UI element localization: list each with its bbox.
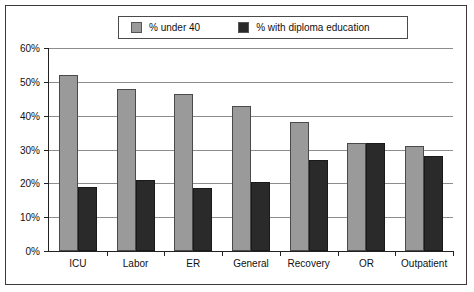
y-axis-tick-label: 40%: [20, 110, 40, 121]
bar-under-40[interactable]: [117, 89, 136, 251]
bar-under-40[interactable]: [347, 143, 366, 251]
y-axis-tick-label: 60%: [20, 43, 40, 54]
bar-group: [174, 48, 212, 251]
y-axis-tick-label: 30%: [20, 144, 40, 155]
bar-under-40[interactable]: [59, 75, 78, 251]
bar-group: [290, 48, 328, 251]
bar-diploma[interactable]: [424, 156, 443, 251]
x-axis-tick: [453, 251, 454, 256]
y-axis-tick-label: 50%: [20, 76, 40, 87]
bar-diploma[interactable]: [251, 182, 270, 251]
x-axis-tick: [107, 251, 108, 256]
bar-diploma[interactable]: [366, 143, 385, 251]
bar-under-40[interactable]: [232, 106, 251, 251]
y-axis-tick: [44, 251, 49, 252]
chart-frame: % under 40 % with diploma education 0%10…: [5, 5, 467, 285]
bar-diploma[interactable]: [309, 160, 328, 251]
x-axis-label-or: OR: [359, 258, 374, 269]
plot-area: 0%10%20%30%40%50%60% ICULaborERGeneralRe…: [48, 48, 453, 252]
bar-under-40[interactable]: [405, 146, 424, 251]
bar-diploma[interactable]: [193, 188, 212, 251]
bar-under-40[interactable]: [290, 122, 309, 251]
x-axis-label-outpatient: Outpatient: [401, 258, 447, 269]
bar-under-40[interactable]: [174, 94, 193, 251]
x-axis-label-er: ER: [186, 258, 200, 269]
bar-diploma[interactable]: [136, 180, 155, 251]
bar-group: [232, 48, 270, 251]
bar-group: [59, 48, 97, 251]
y-axis-tick-label: 10%: [20, 212, 40, 223]
x-axis-tick: [222, 251, 223, 256]
x-axis-tick: [395, 251, 396, 256]
x-axis-label-recovery: Recovery: [288, 258, 330, 269]
bars-layer: [49, 48, 453, 251]
y-axis-tick-label: 0%: [26, 246, 40, 257]
x-axis-tick: [338, 251, 339, 256]
x-axis-tick: [280, 251, 281, 256]
plot-wrapper: 0%10%20%30%40%50%60% ICULaborERGeneralRe…: [6, 6, 468, 286]
x-axis-label-general: General: [233, 258, 269, 269]
bar-group: [117, 48, 155, 251]
y-axis-tick-label: 20%: [20, 178, 40, 189]
x-axis-label-labor: Labor: [123, 258, 149, 269]
bar-group: [347, 48, 385, 251]
bar-diploma[interactable]: [78, 187, 97, 251]
x-axis-label-icu: ICU: [69, 258, 86, 269]
x-axis-tick: [164, 251, 165, 256]
bar-group: [405, 48, 443, 251]
